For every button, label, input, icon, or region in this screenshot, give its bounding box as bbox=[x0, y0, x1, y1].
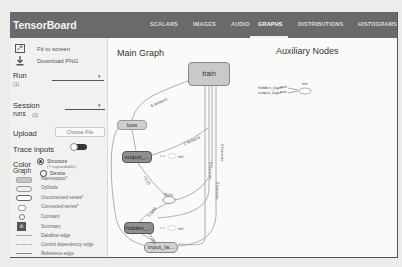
input-layer-node[interactable]: input_la... bbox=[144, 242, 178, 253]
relu-label: Relu bbox=[164, 192, 173, 197]
namespace-swatch bbox=[16, 177, 32, 183]
chevron-down-icon[interactable]: ▾ bbox=[98, 73, 101, 79]
control-edge-swatch bbox=[16, 244, 32, 245]
legend-unconnected-series: Unconnected series* bbox=[41, 195, 83, 200]
connected-series-swatch bbox=[18, 205, 26, 211]
tab-images[interactable]: IMAGES bbox=[193, 21, 216, 27]
run-label: Run bbox=[13, 71, 27, 80]
session-runs-label: Session bbox=[13, 101, 40, 110]
init-label-hidden: init bbox=[178, 226, 184, 231]
run-select[interactable] bbox=[52, 80, 104, 81]
legend-connected-series: Connected series* bbox=[41, 204, 79, 209]
dataflow-edge-swatch bbox=[16, 235, 32, 236]
trace-inputs-toggle[interactable] bbox=[70, 143, 87, 151]
loss-node[interactable]: loss bbox=[117, 120, 147, 130]
edge-label-bundle-3: 2 tensors bbox=[220, 144, 225, 162]
graph-canvas[interactable]: Main Graph Auxiliary Nodes bbox=[108, 38, 398, 258]
train-node[interactable]: train bbox=[188, 62, 230, 86]
fit-to-screen-button[interactable]: Fit to screen bbox=[37, 46, 70, 52]
color-label-graph: Graph bbox=[13, 167, 31, 174]
output-layer-node[interactable]: output_... bbox=[122, 151, 152, 163]
relu-node bbox=[163, 197, 175, 204]
run-count: (1) bbox=[13, 81, 19, 87]
download-icon[interactable] bbox=[16, 56, 24, 66]
legend-opnode: OpNode bbox=[41, 185, 58, 190]
sidebar: Fit to screen Download PNG Run (1) ▾ Ses… bbox=[10, 38, 108, 258]
color-structure-radio[interactable] bbox=[37, 158, 44, 165]
download-png-button[interactable]: Download PNG bbox=[37, 58, 78, 64]
top-bar: TensorBoard SCALARS IMAGES AUDIO GRAPHS … bbox=[10, 12, 398, 38]
choose-file-button[interactable]: Choose File bbox=[55, 127, 105, 137]
trace-inputs-label: Trace inputs bbox=[13, 145, 54, 154]
init-label-output: init bbox=[178, 154, 184, 159]
legend-dataflow-edge: Dataflow edge bbox=[41, 233, 70, 238]
tab-histograms[interactable]: HISTOGRAMS bbox=[358, 21, 397, 27]
session-runs-select[interactable] bbox=[65, 109, 105, 110]
fit-to-screen-icon[interactable] bbox=[15, 44, 25, 53]
tab-graphs[interactable]: GRAPHS bbox=[258, 21, 283, 27]
aux-init-label[interactable]: init bbox=[302, 81, 308, 86]
tensorboard-window: TensorBoard SCALARS IMAGES AUDIO GRAPHS … bbox=[10, 12, 398, 258]
edge-label-bundle-2: 2 tensors bbox=[215, 182, 220, 200]
unconnected-series-swatch bbox=[16, 195, 32, 201]
legend-reference-edge: Reference edge bbox=[41, 251, 74, 256]
edge-label-bundle-1: 2 tensors bbox=[208, 162, 213, 180]
session-runs-count: (0) bbox=[32, 112, 38, 118]
session-runs-label-2: runs bbox=[13, 110, 26, 117]
toggle-knob bbox=[70, 143, 78, 151]
opnode-swatch bbox=[16, 186, 32, 192]
aux-output-layer[interactable]: output_layer bbox=[258, 90, 282, 95]
legend-summary: Summary bbox=[41, 224, 61, 229]
app-title: TensorBoard bbox=[13, 19, 76, 31]
legend-namespace: Namespace* bbox=[41, 176, 67, 181]
chevron-down-icon[interactable]: ▾ bbox=[98, 102, 101, 108]
upload-label: Upload bbox=[13, 129, 37, 138]
reference-edge-swatch bbox=[16, 253, 32, 254]
tab-audio[interactable]: AUDIO bbox=[231, 21, 250, 27]
tab-scalars[interactable]: SCALARS bbox=[150, 21, 178, 27]
tab-distributions[interactable]: DISTRIBUTIONS bbox=[298, 21, 343, 27]
color-structure-sub: (? expandable) bbox=[47, 164, 76, 169]
summary-icon: ılı bbox=[17, 222, 26, 231]
legend-control-dependency-edge: Control dependency edge bbox=[41, 242, 94, 247]
legend-constant: Constant bbox=[41, 214, 59, 219]
constant-icon bbox=[19, 214, 25, 220]
